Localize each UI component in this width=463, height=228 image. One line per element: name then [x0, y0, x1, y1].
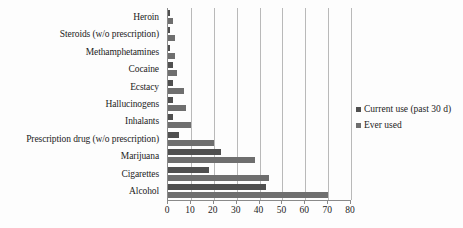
x-tick-label: 0 [165, 205, 170, 215]
x-tick-mark [281, 200, 282, 204]
x-tick-mark [327, 200, 328, 204]
legend-item[interactable]: Current use (past 30 d) [356, 104, 451, 114]
bar-current-use [168, 149, 221, 155]
x-tick-mark [213, 200, 214, 204]
x-tick-label: 40 [254, 205, 264, 215]
legend-label: Ever used [364, 120, 402, 130]
bar-current-use [168, 45, 170, 51]
x-tick-mark [304, 200, 305, 204]
x-tick-mark [190, 200, 191, 204]
bar-ever-used [168, 140, 214, 146]
bar-current-use [168, 132, 179, 138]
x-tick-label: 70 [322, 205, 332, 215]
bar-group [168, 60, 350, 77]
bar-current-use [168, 10, 170, 16]
x-tick-mark [167, 200, 168, 204]
category-label: Methamphetamines [0, 43, 164, 60]
category-label: Ecstacy [0, 78, 164, 95]
bar-current-use [168, 184, 266, 190]
legend-label: Current use (past 30 d) [364, 104, 451, 114]
plot-area [167, 8, 350, 200]
legend-swatch-icon [356, 107, 361, 112]
bar-group [168, 148, 350, 165]
bar-current-use [168, 97, 173, 103]
bar-ever-used [168, 70, 177, 76]
x-tick-label: 30 [231, 205, 241, 215]
bar-current-use [168, 80, 173, 86]
bar-current-use [168, 114, 173, 120]
bar-group [168, 25, 350, 42]
x-tick-label: 50 [277, 205, 287, 215]
x-tick-label: 10 [185, 205, 195, 215]
bar-group [168, 43, 350, 60]
category-label: Inhalants [0, 113, 164, 130]
category-axis-labels: HeroinSteroids (w/o prescription)Methamp… [0, 8, 164, 200]
category-label: Alcohol [0, 183, 164, 200]
x-tick-label: 80 [345, 205, 355, 215]
bar-group [168, 130, 350, 147]
category-label: Marijuana [0, 148, 164, 165]
bar-group [168, 8, 350, 25]
x-tick-mark [350, 200, 351, 204]
bar-ever-used [168, 157, 255, 163]
chart-legend: Current use (past 30 d)Ever used [356, 104, 451, 130]
x-tick-mark [236, 200, 237, 204]
bar-current-use [168, 62, 173, 68]
bar-ever-used [168, 105, 186, 111]
bar-ever-used [168, 122, 191, 128]
bar-group [168, 183, 350, 200]
category-label: Steroids (w/o prescription) [0, 25, 164, 42]
bar-group [168, 78, 350, 95]
bar-ever-used [168, 18, 173, 24]
bar-current-use [168, 167, 209, 173]
bar-group [168, 95, 350, 112]
legend-item[interactable]: Ever used [356, 120, 451, 130]
bar-current-use [168, 27, 170, 33]
category-label: Cocaine [0, 60, 164, 77]
x-tick-label: 20 [208, 205, 218, 215]
category-label: Prescription drug (w/o prescription) [0, 130, 164, 147]
category-label: Heroin [0, 8, 164, 25]
x-tick-mark [259, 200, 260, 204]
bar-group [168, 113, 350, 130]
bar-group [168, 165, 350, 182]
category-label: Hallucinogens [0, 95, 164, 112]
legend-swatch-icon [356, 123, 361, 128]
bar-ever-used [168, 192, 328, 198]
category-label: Cigarettes [0, 165, 164, 182]
bar-ever-used [168, 53, 175, 59]
gridline [351, 8, 352, 200]
bar-ever-used [168, 35, 175, 41]
x-tick-label: 60 [300, 205, 310, 215]
bar-ever-used [168, 175, 269, 181]
bar-chart: HeroinSteroids (w/o prescription)Methamp… [0, 0, 463, 228]
bar-ever-used [168, 88, 184, 94]
